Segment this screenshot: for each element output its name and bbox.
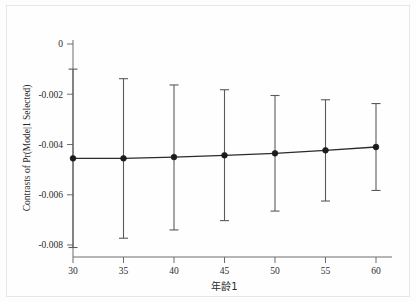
data-point-marker: [70, 155, 76, 161]
x-tick-label: 60: [371, 266, 381, 276]
y-axis-title: Contrasts of Pr(Mode|1 Selected): [22, 85, 33, 212]
y-tick-label: 0: [58, 39, 63, 49]
y-ticks: [67, 44, 73, 245]
chart-svg: 0 -0.002 -0.004 -0.006 -0.008 30 35 40: [0, 0, 416, 302]
x-axis-title: 年龄1: [211, 280, 237, 292]
plot-area: 0 -0.002 -0.004 -0.006 -0.008 30 35 40: [0, 0, 416, 302]
x-tick-label: 50: [270, 266, 280, 276]
y-tick-label: -0.002: [38, 90, 63, 100]
data-point-marker: [171, 154, 177, 160]
data-point-marker: [222, 152, 228, 158]
data-point-marker: [121, 155, 127, 161]
x-tick-label: 55: [321, 266, 331, 276]
x-tick-label: 35: [119, 266, 129, 276]
data-point-marker: [272, 150, 278, 156]
y-tick-label: -0.004: [38, 140, 63, 150]
x-tick-label: 45: [220, 266, 230, 276]
data-point-marker: [373, 144, 379, 150]
x-tick-label: 40: [169, 266, 179, 276]
y-tick-label: -0.006: [38, 190, 63, 200]
data-series: [69, 69, 381, 247]
y-tick-labels: 0 -0.002 -0.004 -0.006 -0.008: [38, 39, 63, 250]
chart-figure: 0 -0.002 -0.004 -0.006 -0.008 30 35 40: [0, 0, 416, 302]
x-ticks: [73, 257, 376, 263]
x-tick-labels: 30 35 40 45 50 55 60: [68, 266, 381, 276]
y-tick-label: -0.008: [38, 240, 63, 250]
x-tick-label: 30: [68, 266, 78, 276]
data-point-marker: [323, 147, 329, 153]
